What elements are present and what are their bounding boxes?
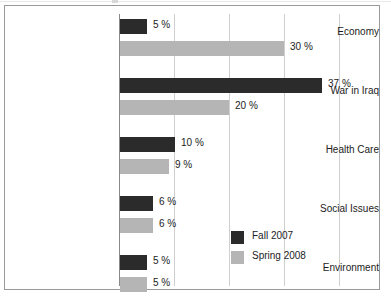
bar-environment-fall-2007 — [120, 255, 147, 270]
legend-item-spring-2008: Spring 2008 — [231, 248, 341, 268]
legend-label-spring-2008: Spring 2008 — [252, 250, 306, 261]
bar-social-issues-spring-2008 — [120, 218, 153, 233]
scan-artifact-line — [0, 1, 391, 2]
legend-swatch-fall-2007 — [231, 231, 244, 244]
bar-value-iraq-fall: 37 % — [328, 78, 351, 89]
chart-figure-frame: Economy 5 % 30 % War in Iraq 37 % 20 % H… — [4, 5, 380, 290]
bar-war-in-iraq-fall-2007 — [120, 78, 322, 93]
legend-item-fall-2007: Fall 2007 — [231, 228, 341, 248]
bar-health-care-spring-2008 — [120, 159, 169, 174]
bar-health-care-fall-2007 — [120, 137, 175, 152]
bar-economy-fall-2007 — [120, 19, 147, 34]
chart-legend: Fall 2007 Spring 2008 — [231, 228, 341, 268]
bar-value-environment-fall: 5 % — [153, 255, 170, 266]
bar-value-social-fall: 6 % — [159, 196, 176, 207]
bar-value-economy-spring: 30 % — [290, 41, 313, 52]
category-label-economy: Economy — [271, 26, 379, 37]
bar-economy-spring-2008 — [120, 41, 284, 56]
bar-social-issues-fall-2007 — [120, 196, 153, 211]
legend-label-fall-2007: Fall 2007 — [252, 230, 293, 241]
bar-value-environment-spring: 5 % — [153, 277, 170, 288]
plot-area: Economy 5 % 30 % War in Iraq 37 % 20 % H… — [5, 6, 379, 289]
bar-war-in-iraq-spring-2008 — [120, 100, 229, 115]
category-label-social-issues: Social Issues — [271, 203, 379, 214]
legend-swatch-spring-2008 — [231, 251, 244, 264]
bar-value-health-spring: 9 % — [175, 159, 192, 170]
bar-value-social-spring: 6 % — [159, 218, 176, 229]
bar-environment-spring-2008 — [120, 277, 147, 292]
bar-value-iraq-spring: 20 % — [235, 100, 258, 111]
category-label-health-care: Health Care — [271, 144, 379, 155]
bar-value-health-fall: 10 % — [181, 137, 204, 148]
bar-value-economy-fall: 5 % — [153, 19, 170, 30]
scan-artifact-mark — [112, 0, 118, 3]
